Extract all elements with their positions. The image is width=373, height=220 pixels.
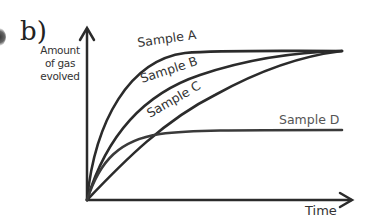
label-sample-d: Sample D bbox=[279, 112, 339, 127]
curve-sample-d bbox=[87, 130, 342, 200]
label-sample-a: Sample A bbox=[136, 27, 197, 50]
chart-plot: Sample A Sample B Sample C Sample D bbox=[0, 0, 373, 220]
